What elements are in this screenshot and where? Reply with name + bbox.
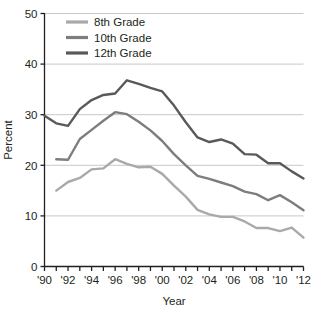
legend-label-2: 12th Grade [94,47,152,59]
line-chart: 01020304050'90'92'94'96'98'00'02'04'06'0… [0,0,316,310]
y-tick-label-30: 30 [25,109,38,121]
x-axis-ticks: '90'92'94'96'98'00'02'04'06'08'10'12 [37,267,311,286]
legend: 8th Grade10th Grade12th Grade [66,16,152,59]
y-axis-ticks: 01020304050 [25,8,45,273]
chart-canvas: 01020304050'90'92'94'96'98'00'02'04'06'0… [0,0,316,310]
x-axis-title: Year [162,295,185,307]
y-tick-label-10: 10 [25,210,38,222]
x-tick-label-1998: '98 [131,274,146,286]
x-tick-label-2006: '06 [225,274,240,286]
x-tick-label-1996: '96 [108,274,123,286]
y-tick-label-50: 50 [25,8,38,20]
y-tick-label-0: 0 [31,261,37,273]
x-tick-label-2010: '10 [272,274,287,286]
x-tick-label-2002: '02 [178,274,193,286]
x-tick-label-2012: '12 [296,274,311,286]
x-tick-label-1994: '94 [84,274,100,286]
y-tick-label-20: 20 [25,160,38,172]
x-tick-label-2008: '08 [249,274,264,286]
legend-label-1: 10th Grade [94,32,152,44]
x-tick-label-2000: '00 [155,274,170,286]
x-tick-label-1990: '90 [37,274,52,286]
x-tick-label-2004: '04 [202,274,218,286]
y-tick-label-40: 40 [25,58,38,70]
x-tick-label-1992: '92 [61,274,76,286]
series-line-12th-grade [45,80,304,178]
legend-label-0: 8th Grade [94,16,145,28]
data-series-group [45,80,304,237]
y-axis-title: Percent [2,119,14,159]
